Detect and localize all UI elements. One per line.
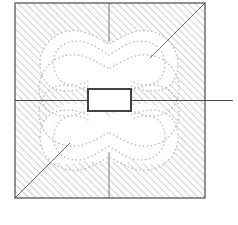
- figure-container: [0, 0, 238, 225]
- centre-rectangle: [88, 89, 131, 111]
- cross-section-figure: [0, 0, 238, 225]
